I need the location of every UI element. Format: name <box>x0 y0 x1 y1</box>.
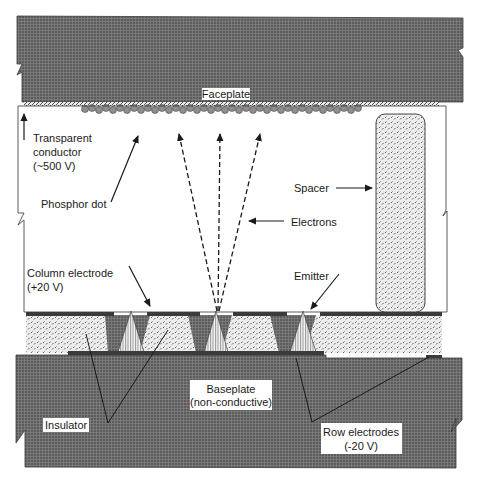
baseplate-label-2: (non-conductive) <box>190 396 272 408</box>
row-electrodes-label-1: Row electrodes <box>323 426 399 438</box>
faceplate-label: Faceplate <box>202 88 250 100</box>
column-electrode-label-2: (+20 V) <box>27 281 63 293</box>
insulator-layer <box>26 315 442 353</box>
electron-beams <box>179 134 260 311</box>
phosphor-dot-arrow <box>111 136 138 202</box>
baseplate-label-1: Baseplate <box>207 383 256 395</box>
electrons-label: Electrons <box>291 216 337 228</box>
phosphor-dot-label: Phosphor dot <box>41 198 106 210</box>
insulator-label: Insulator <box>45 419 88 431</box>
row-electrodes-label-2: (-20 V) <box>344 440 378 452</box>
column-electrode-label-1: Column electrode <box>27 267 113 279</box>
electron-beam-left <box>179 134 217 311</box>
transparent-conductor-label-2: conductor <box>33 146 82 158</box>
spacer <box>376 114 425 312</box>
emitter-label: Emitter <box>294 270 329 282</box>
column-electrode-arrow <box>129 266 150 306</box>
electron-beam-center <box>218 134 220 311</box>
electron-beam-right <box>219 134 260 311</box>
column-electrode <box>26 312 442 316</box>
transparent-conductor-label-1: Transparent <box>33 132 92 144</box>
spacer-label: Spacer <box>294 182 329 194</box>
fed-cross-section-diagram: Faceplate <box>0 0 478 484</box>
transparent-conductor-label-3: (~500 V) <box>33 160 76 172</box>
